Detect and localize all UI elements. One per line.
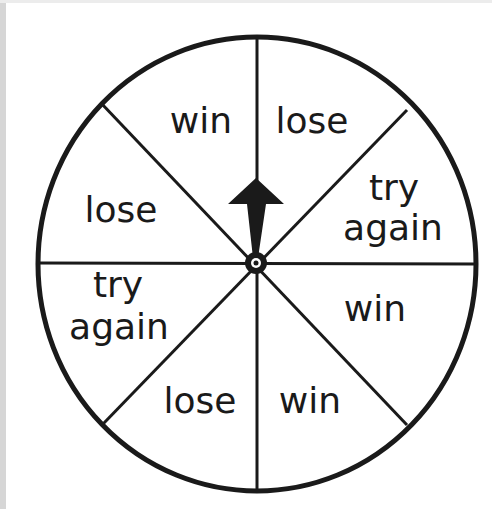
spinner-wheel: win lose try again win win lose try agai…	[0, 0, 492, 509]
label-bottom-right: win	[279, 380, 341, 421]
label-right-lower: win	[344, 288, 406, 329]
label-top-left: win	[170, 100, 232, 141]
spinner-arrow-icon[interactable]	[228, 178, 284, 274]
label-top-right: lose	[276, 100, 349, 141]
label-right-upper-2: again	[343, 207, 443, 248]
label-left-lower-1: try	[93, 264, 143, 305]
label-left-upper: lose	[85, 189, 158, 230]
label-right-upper-1: try	[369, 167, 419, 208]
label-bottom-left: lose	[164, 380, 237, 421]
label-left-lower-2: again	[69, 306, 169, 347]
